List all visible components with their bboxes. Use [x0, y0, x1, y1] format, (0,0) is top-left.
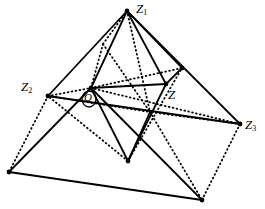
angle-label-o: O [84, 92, 92, 103]
angle-label-o-text: O [84, 91, 92, 103]
edge-o-bl [9, 88, 91, 172]
edge-o-br [91, 88, 202, 200]
edge-z1-z [127, 11, 166, 84]
vertex-dot-z2 [46, 94, 51, 99]
vertex-dot-br [200, 198, 205, 203]
vertex-label-z1-subscript: 1 [143, 8, 147, 17]
tetrahedron-diagram [0, 0, 265, 209]
vertex-label-z3-subscript: 3 [252, 124, 256, 133]
dotted-z2-bl [9, 96, 48, 172]
figure-root: Z1Z2Z3ZO [0, 0, 265, 209]
edge-z2-z3 [48, 96, 240, 124]
edge-bl-br [9, 172, 202, 200]
dotted-z3-br [202, 124, 240, 200]
vertex-dot-z1 [125, 9, 130, 14]
vertex-label-z-text: Z [168, 87, 175, 102]
vertex-dot-bl [7, 170, 12, 175]
vertex-dot-b [126, 159, 131, 164]
edge-z1-o [91, 11, 127, 88]
vertex-label-z2: Z2 [21, 80, 32, 93]
vertex-label-z1: Z1 [136, 2, 147, 15]
vertex-label-z: Z [168, 88, 175, 101]
vertex-dot-o [89, 86, 94, 91]
dotted-edges-group [9, 11, 240, 200]
vertex-dot-z [164, 82, 169, 87]
vertex-dots-group [7, 9, 243, 203]
edge-z1-r [127, 11, 182, 68]
solid-edges-group [9, 11, 240, 200]
vertex-label-z3: Z3 [245, 118, 256, 131]
vertex-dot-r [180, 66, 185, 71]
vertex-label-z2-subscript: 2 [28, 86, 32, 95]
vertex-dot-z3 [238, 122, 243, 127]
edge-b-d [128, 112, 150, 161]
